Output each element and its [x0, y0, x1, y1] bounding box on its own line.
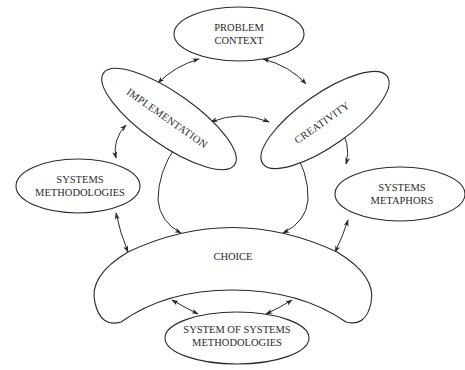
- node-systems-methodologies: SYSTEMS METHODOLOGIES: [16, 159, 140, 213]
- systems-diagram: PROBLEM CONTEXT IMPLEMENTATION CREATIVIT…: [0, 0, 465, 370]
- systems-metaphors-label-line2: METAPHORS: [371, 195, 434, 206]
- edge-metaphors-choice: [335, 220, 348, 252]
- systems-metaphors-label-line1: SYSTEMS: [378, 182, 425, 193]
- edge-problem-creativity: [263, 59, 306, 84]
- systems-methodologies-label-line2: METHODOLOGIES: [35, 187, 125, 198]
- edge-implementation-methodologies: [115, 125, 126, 158]
- node-system-of-systems-methodologies: SYSTEM OF SYSTEMS METHODOLOGIES: [165, 312, 309, 364]
- node-systems-metaphors: SYSTEMS METAPHORS: [335, 167, 465, 221]
- sosm-label-line2: METHODOLOGIES: [192, 337, 282, 348]
- edge-implementation-choice: [158, 146, 181, 233]
- sosm-label-line1: SYSTEM OF SYSTEMS: [183, 324, 291, 335]
- node-creativity: CREATIVITY: [248, 55, 402, 185]
- systems-methodologies-label-line1: SYSTEMS: [56, 174, 103, 185]
- edge-choice-sosm-left: [172, 300, 198, 314]
- node-problem-context: PROBLEM CONTEXT: [174, 7, 304, 61]
- edge-choice-sosm-right: [266, 300, 292, 314]
- edge-problem-implementation: [158, 59, 199, 83]
- node-choice: CHOICE: [94, 228, 372, 324]
- edge-methodologies-choice: [116, 213, 128, 252]
- edge-implementation-creativity: [211, 116, 269, 122]
- choice-label: CHOICE: [213, 251, 252, 262]
- problem-context-label-line2: CONTEXT: [215, 35, 265, 46]
- problem-context-label-line1: PROBLEM: [214, 22, 264, 33]
